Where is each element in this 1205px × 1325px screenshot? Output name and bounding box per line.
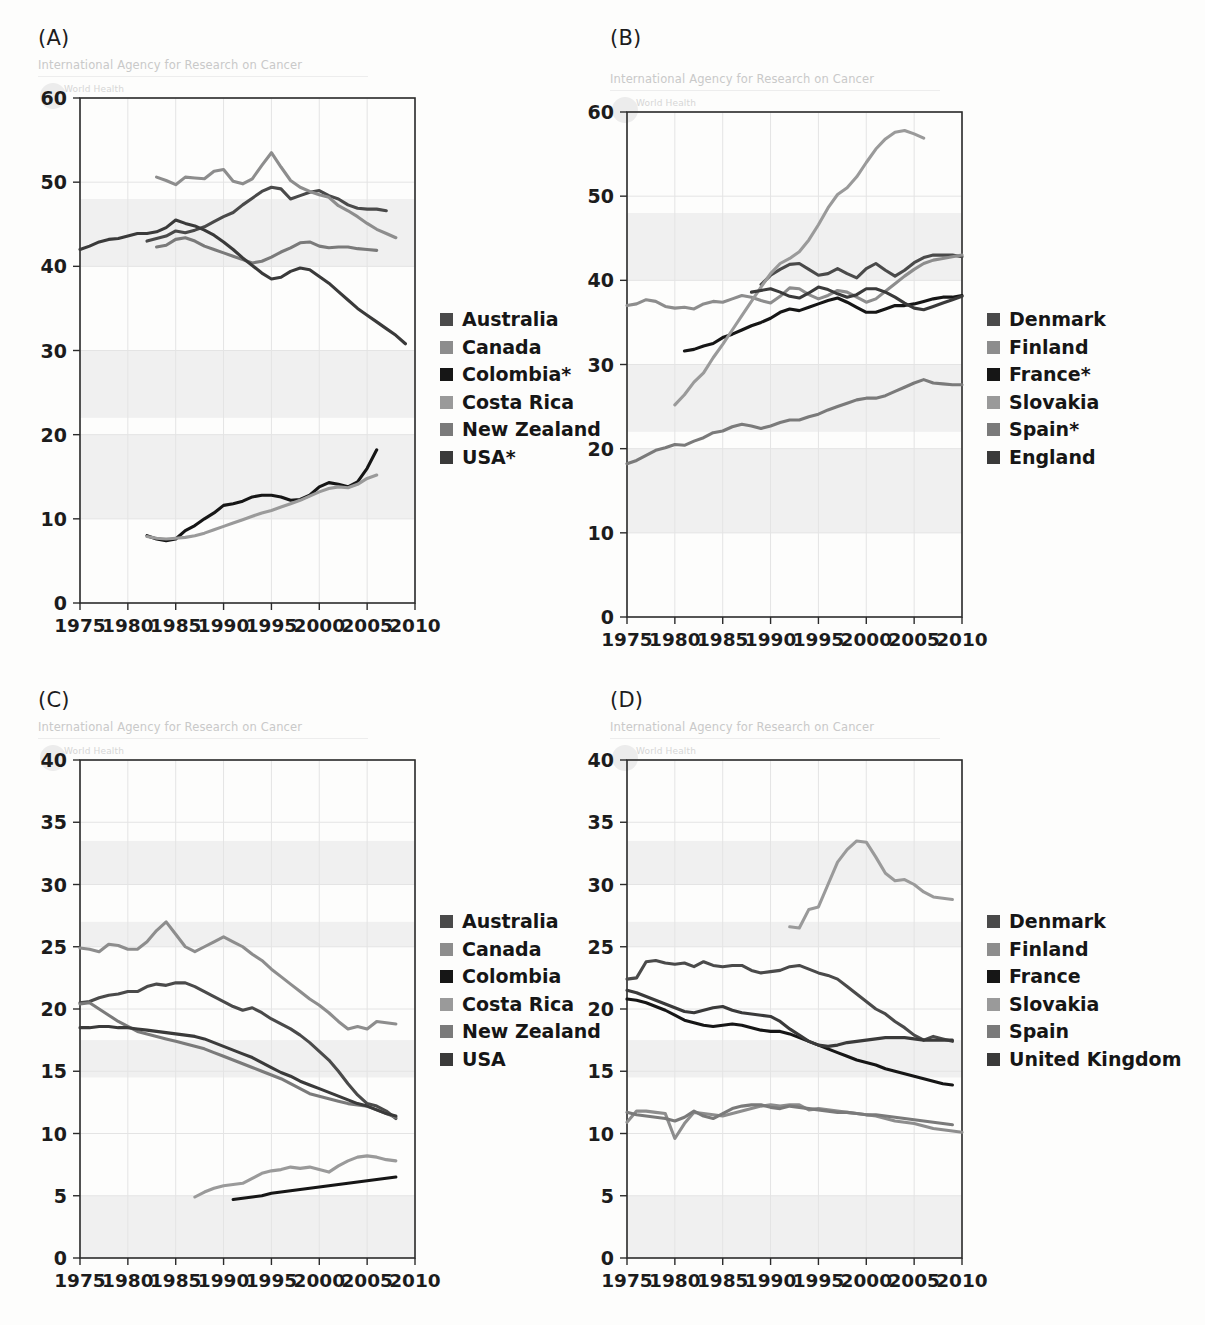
x-tick-label: 1995 [793,1270,845,1291]
y-tick-label: 30 [41,874,67,896]
x-tick-label: 1985 [697,629,749,650]
legend-label: Costa Rica [462,393,574,412]
y-tick-label: 10 [588,522,614,544]
legend-item-new-zealand: New Zealand [440,420,601,439]
legend-label: Denmark [1009,912,1106,931]
legend-swatch-icon [440,998,453,1011]
legend-swatch-icon [440,970,453,983]
legend-label: Canada [462,940,542,959]
legend-item-costa-rica: Costa Rica [440,995,601,1014]
legend-item-spain: Spain* [987,420,1106,439]
x-tick-label: 1980 [649,1270,701,1291]
x-tick-label: 1975 [601,1270,653,1291]
legend-label: New Zealand [462,1022,601,1041]
legend-label: Colombia* [462,365,571,384]
x-tick-label: 1995 [793,629,845,650]
panel-a-legend: AustraliaCanadaColombia*Costa RicaNew Ze… [440,310,601,475]
plot-band [627,449,962,533]
y-tick-label: 40 [41,255,67,277]
plot-band [627,1196,962,1258]
legend-label: Slovakia [1009,393,1099,412]
y-tick-label: 10 [41,1123,67,1145]
legend-item-colombia: Colombia* [440,365,601,384]
y-tick-label: 10 [41,508,67,530]
y-tick-label: 5 [601,1185,614,1207]
panel-d-legend: DenmarkFinlandFranceSlovakiaSpainUnited … [987,912,1181,1077]
panel-c: (C) International Agency for Research on… [0,672,602,1325]
x-tick-label: 2000 [841,629,893,650]
legend-swatch-icon [987,396,1000,409]
legend-swatch-icon [987,368,1000,381]
legend-swatch-icon [987,1053,1000,1066]
y-tick-label: 0 [601,1247,614,1269]
legend-label: Denmark [1009,310,1106,329]
legend-label: New Zealand [462,420,601,439]
y-tick-label: 50 [588,185,614,207]
x-tick-label: 1985 [150,615,202,636]
y-tick-label: 40 [588,269,614,291]
panel-a: (A) International Agency for Research on… [0,0,602,672]
x-tick-label: 1980 [649,629,701,650]
legend-item-france: France* [987,365,1106,384]
legend-label: France [1009,967,1081,986]
plot-band [80,841,415,885]
x-tick-label: 1980 [102,615,154,636]
x-tick-label: 1995 [246,1270,298,1291]
legend-swatch-icon [440,313,453,326]
x-tick-label: 1975 [601,629,653,650]
y-tick-label: 40 [41,749,67,771]
legend-swatch-icon [987,970,1000,983]
y-tick-label: 10 [588,1123,614,1145]
panel-b-legend: DenmarkFinlandFrance*SlovakiaSpain*Engla… [987,310,1106,475]
legend-item-slovakia: Slovakia [987,995,1181,1014]
y-tick-label: 25 [41,936,67,958]
legend-swatch-icon [440,943,453,956]
legend-swatch-icon [987,451,1000,464]
legend-item-australia: Australia [440,310,601,329]
y-tick-label: 50 [41,171,67,193]
x-tick-label: 2010 [936,1270,988,1291]
x-tick-label: 2005 [341,615,393,636]
panel-d: (D) International Agency for Research on… [602,672,1205,1325]
plot-band [627,841,962,885]
legend-label: France* [1009,365,1091,384]
x-tick-label: 1995 [246,615,298,636]
legend-item-france: France [987,967,1181,986]
x-tick-label: 1975 [54,1270,106,1291]
legend-item-england: England [987,448,1106,467]
legend-item-spain: Spain [987,1022,1181,1041]
legend-item-united-kingdom: United Kingdom [987,1050,1181,1069]
y-tick-label: 20 [588,438,614,460]
legend-item-australia: Australia [440,912,601,931]
legend-item-denmark: Denmark [987,912,1181,931]
y-tick-label: 60 [588,101,614,123]
legend-label: Finland [1009,940,1088,959]
plot-band [627,922,962,947]
y-tick-label: 0 [601,606,614,628]
y-tick-label: 20 [588,998,614,1020]
legend-item-canada: Canada [440,338,601,357]
x-tick-label: 1985 [697,1270,749,1291]
legend-item-usa: USA [440,1050,601,1069]
legend-label: USA [462,1050,506,1069]
x-tick-label: 1990 [198,1270,250,1291]
legend-item-slovakia: Slovakia [987,393,1106,412]
legend-label: Slovakia [1009,995,1099,1014]
legend-swatch-icon [987,943,1000,956]
legend-label: Spain* [1009,420,1079,439]
legend-item-costa-rica: Costa Rica [440,393,601,412]
legend-item-canada: Canada [440,940,601,959]
y-tick-label: 15 [41,1060,67,1082]
plot-band [80,1196,415,1258]
y-tick-label: 30 [588,874,614,896]
legend-label: United Kingdom [1009,1050,1181,1069]
legend-swatch-icon [440,396,453,409]
legend-item-usa: USA* [440,448,601,467]
y-tick-label: 40 [588,749,614,771]
legend-label: England [1009,448,1096,467]
x-tick-label: 1975 [54,615,106,636]
legend-label: Canada [462,338,542,357]
legend-swatch-icon [440,368,453,381]
series-line-france [684,295,962,351]
legend-swatch-icon [440,915,453,928]
